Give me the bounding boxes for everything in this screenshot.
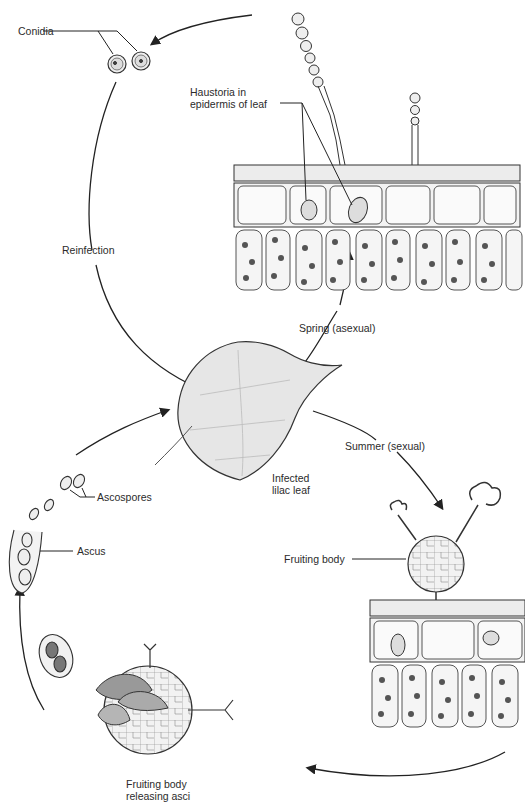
label-conidia: Conidia (18, 25, 54, 37)
fruiting-body-releasing-asci-illustration (96, 644, 233, 754)
conidia-illustration (108, 52, 150, 73)
conidiophore-chains (292, 13, 420, 168)
haustorium (301, 200, 317, 220)
label-leaf-line1: Infected (272, 472, 309, 484)
label-leaf-line2: lilac leaf (272, 484, 310, 496)
label-reinfection: Reinfection (62, 244, 115, 256)
leaf-section-summer (370, 600, 525, 727)
conidia-leader (43, 31, 137, 54)
life-cycle-diagram (0, 0, 525, 804)
ascospores-leader (70, 488, 95, 497)
ascospores-illustration (28, 472, 87, 521)
arrow-to-leaf (76, 410, 168, 455)
arrow-to-release (308, 752, 505, 776)
fruiting-body-illustration (390, 482, 500, 608)
ascus-in-fruiting-body (33, 630, 78, 682)
label-fruiting-body: Fruiting body (284, 553, 345, 565)
label-haustoria-line1: Haustoria in (190, 86, 246, 98)
arrow-to-conidia (152, 15, 252, 44)
leaf-section-spring (234, 13, 522, 290)
label-summer: Summer (sexual) (345, 440, 425, 452)
label-haustoria-line2: epidermis of leaf (190, 98, 267, 110)
arrow-reinfection (89, 82, 116, 250)
ascus-illustration (9, 530, 42, 593)
label-releasing-line2: releasing asci (126, 790, 190, 802)
arrow-summer (313, 411, 376, 440)
label-spring: Spring (asexual) (299, 322, 375, 334)
arrow-summer-2 (397, 452, 442, 508)
label-releasing-line1: Fruiting body (126, 778, 187, 790)
label-ascospores: Ascospores (97, 491, 152, 503)
label-ascus: Ascus (77, 545, 106, 557)
arrow-spring (302, 311, 337, 366)
